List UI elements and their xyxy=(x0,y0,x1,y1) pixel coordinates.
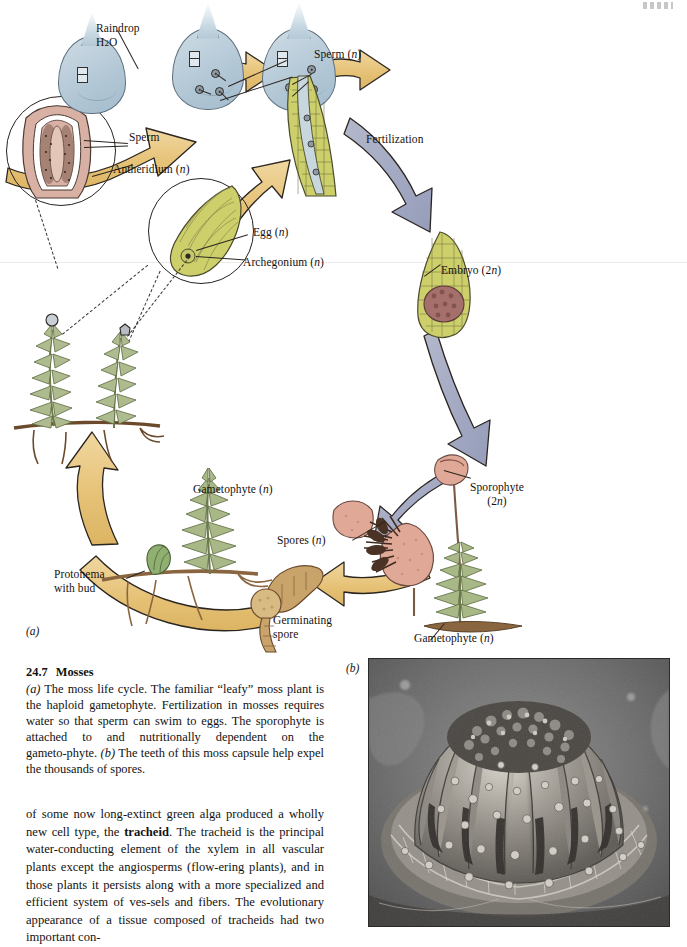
label-egg: Egg (n) xyxy=(253,226,289,240)
label-antheridium: Antheridium (n) xyxy=(113,163,190,177)
panel-a-tag: (a) xyxy=(26,625,39,637)
caption-title: Mosses xyxy=(56,665,94,679)
label-germinating-spore: Germinating spore xyxy=(273,614,332,641)
panel-b-tag: (b) xyxy=(346,662,359,674)
label-embryo: Embryo (2n) xyxy=(441,264,501,278)
cell-marker xyxy=(189,58,200,67)
label-protonema: Protonema with bud xyxy=(54,568,105,595)
label-sporophyte: Sporophyte (2n) xyxy=(470,481,524,508)
label-gametophyte-right: Gametophyte (n) xyxy=(414,632,494,646)
label-archegonium: Archegonium (n) xyxy=(243,256,324,270)
sem-image-content xyxy=(369,659,669,926)
moss-life-cycle-figure: Raindrop H2O Sperm Antheridium (n) Sperm… xyxy=(0,0,687,655)
caption-body: (a) The moss life cycle. The familiar “l… xyxy=(26,681,324,777)
label-gametophyte-left: Gametophyte (n) xyxy=(193,483,273,497)
label-fertilization: Fertilization xyxy=(366,133,424,147)
gametophyte-plants-left xyxy=(8,286,178,466)
archegonium-with-sperm xyxy=(262,72,382,202)
figure-caption: 24.7Mosses (a) The moss life cycle. The … xyxy=(26,664,324,777)
cell-marker xyxy=(77,74,88,83)
caption-number: 24.7 xyxy=(26,665,48,679)
moss-capsule-photo-figure: (b) xyxy=(368,658,668,925)
sperm-cell xyxy=(195,85,204,94)
label-spores: Spores (n) xyxy=(277,534,326,548)
moss-capsule-sem-micrograph xyxy=(368,658,670,927)
archegonium-detail-art xyxy=(146,176,261,291)
embryo-structure xyxy=(402,228,488,346)
raindrop-gloss xyxy=(78,80,116,101)
capsule-with-peristome xyxy=(330,492,458,596)
label-sperm-n: Sperm (n) xyxy=(314,48,361,62)
bold-term: tracheid xyxy=(124,825,169,839)
label-sperm: Sperm xyxy=(129,131,160,145)
body-paragraph: of some now long-extinct green alga prod… xyxy=(26,806,324,947)
label-raindrop: Raindrop H2O xyxy=(96,22,140,49)
